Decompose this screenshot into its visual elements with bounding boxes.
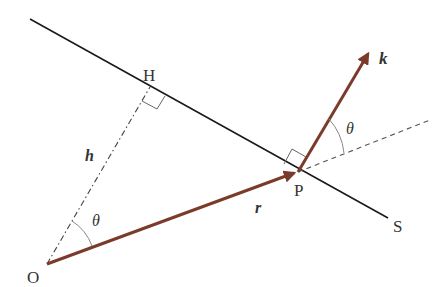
label-k-vector: k — [379, 49, 388, 68]
angle-arc-o — [72, 221, 92, 246]
angle-arc-p — [329, 119, 344, 153]
label-s-line: S — [393, 217, 402, 236]
vector-k — [298, 54, 368, 172]
diagram-canvas: H h θ O r P S θ k — [0, 0, 446, 287]
label-h-length: h — [85, 147, 94, 164]
vector-plane-diagram: H h θ O r P S θ k — [0, 0, 446, 287]
label-p-point: P — [294, 181, 303, 200]
perpendicular-oh — [47, 87, 150, 264]
dashed-extension — [298, 120, 430, 172]
label-r-vector: r — [255, 199, 262, 216]
vector-r — [47, 173, 294, 264]
line-s — [30, 19, 388, 218]
label-o-point: O — [27, 268, 39, 287]
label-h-point: H — [143, 66, 155, 85]
label-theta-o: θ — [92, 212, 100, 229]
label-theta-p: θ — [346, 120, 354, 137]
right-angle-h — [142, 96, 165, 109]
